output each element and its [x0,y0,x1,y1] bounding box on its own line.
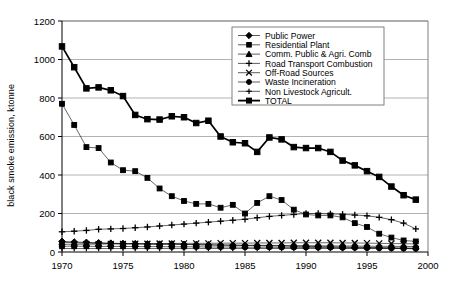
y-axis-tick-marks [58,21,62,252]
y-tick-label: 800 [39,93,55,104]
y-axis-tick-labels: 020040060080010001200 [34,16,55,258]
chart-container: black smoke emission, ktonne 02004006008… [0,0,459,291]
chart-legend: Public PowerResidential PlantComm. Publi… [232,27,384,106]
x-tick-label: 1970 [51,260,72,271]
y-tick-label: 400 [39,170,55,181]
x-tick-label: 1990 [295,260,316,271]
y-tick-label: 1200 [34,16,55,27]
y-tick-label: 600 [39,131,55,142]
x-axis-tick-labels: 1970197519801985199019952000 [51,260,438,271]
y-tick-label: 0 [50,247,55,258]
x-tick-label: 1985 [234,260,255,271]
y-tick-label: 200 [39,208,55,219]
x-tick-label: 1995 [356,260,377,271]
x-axis-tick-marks [62,252,428,256]
line-chart-plot: 020040060080010001200 197019751980198519… [0,0,459,291]
x-tick-label: 1980 [173,260,194,271]
y-tick-label: 1000 [34,54,55,65]
x-tick-label: 1975 [112,260,133,271]
series-road-transport-combustion [59,210,419,235]
x-tick-label: 2000 [417,260,438,271]
legend-label: TOTAL [265,96,292,106]
